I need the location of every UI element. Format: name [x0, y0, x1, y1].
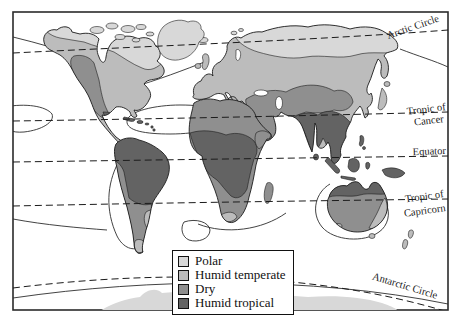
- legend-row-polar: Polar: [178, 254, 288, 268]
- legend-row-humid-temperate: Humid temperate: [178, 268, 288, 282]
- legend-label-humid-tropical: Humid tropical: [195, 296, 274, 310]
- equator-label: Equator: [412, 145, 446, 157]
- legend-row-humid-tropical: Humid tropical: [178, 296, 288, 310]
- polar-swatch-icon: [178, 256, 189, 267]
- sri-lanka: [314, 154, 319, 160]
- humid-temperate-swatch-icon: [178, 270, 189, 281]
- dry-swatch-icon: [178, 284, 189, 295]
- humid-tropical-swatch-icon: [178, 298, 189, 309]
- caspian-sea: [276, 97, 283, 110]
- legend-row-dry: Dry: [178, 282, 288, 296]
- baltic-sea: [236, 49, 241, 60]
- tasmania: [369, 234, 375, 239]
- climate-map: Arctic Circle Tropic of Cancer Equator T…: [0, 0, 455, 324]
- legend-label-dry: Dry: [195, 282, 215, 296]
- map-legend: Polar Humid temperate Dry Humid tropical: [172, 250, 294, 315]
- legend-label-polar: Polar: [195, 254, 222, 268]
- black-sea: [254, 90, 268, 96]
- legend-label-humid-temperate: Humid temperate: [195, 268, 286, 282]
